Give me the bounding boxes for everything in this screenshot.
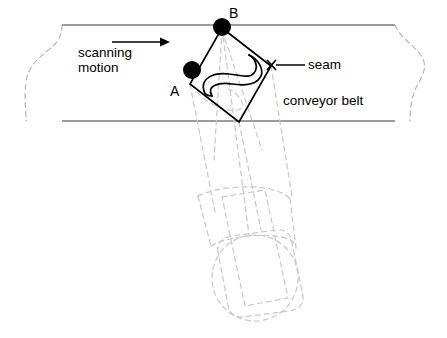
lens-inner-rect <box>222 190 288 306</box>
belt-torn-edge-left <box>25 25 62 121</box>
seam-s-curve <box>203 55 261 96</box>
conveyor-belt-label: conveyor belt <box>283 93 363 108</box>
scanning-motion-label: scanning motion <box>78 45 132 75</box>
diagram-vector-layer <box>0 0 447 338</box>
projection-cone-right-edge <box>271 66 292 196</box>
point-a-dot <box>183 61 201 79</box>
camera-body-circle <box>212 235 298 321</box>
seam-label: seam <box>308 57 341 72</box>
belt-torn-edge-right <box>395 25 424 121</box>
projection-ray-outer <box>239 122 261 230</box>
lens-barrel-bottom-rim <box>211 235 296 248</box>
diagram-canvas: scanning motion seam conveyor belt A B <box>0 0 447 338</box>
lens-barrel-left-side <box>198 196 211 246</box>
camera-ghost-group <box>190 28 303 321</box>
point-b-label: B <box>229 6 238 22</box>
seam-leader-line <box>267 60 305 70</box>
projection-ray-inner-left <box>214 30 222 160</box>
point-a-label: A <box>170 84 179 100</box>
projection-ray-inner-right <box>222 30 262 150</box>
projection-cone-axis <box>222 28 249 235</box>
